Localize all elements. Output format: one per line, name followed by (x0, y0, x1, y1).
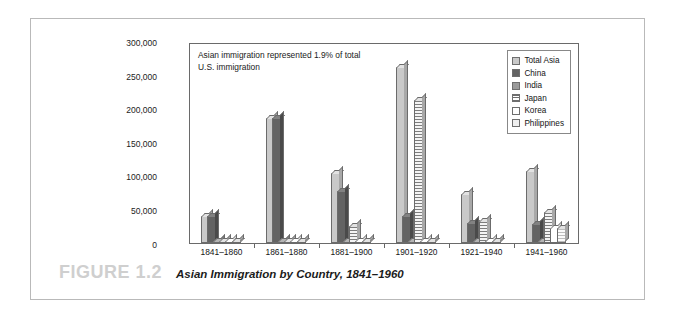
bar-side-face (215, 209, 219, 242)
bar (414, 100, 423, 243)
y-axis-tick-label: 100,000 (95, 173, 157, 181)
bar-side-face (280, 111, 284, 242)
y-axis-tick-label: 250,000 (95, 73, 157, 81)
bar (272, 118, 281, 243)
bar-group (201, 44, 247, 243)
y-axis-tick-label: 200,000 (95, 106, 157, 114)
figure-caption: FIGURE 1.2 Asian Immigration by Country,… (59, 262, 404, 283)
y-axis-tick-labels: 300,000250,000200,000150,000100,00050,00… (71, 43, 157, 244)
bar-group (526, 44, 572, 243)
figure-frame: 300,000250,000200,000150,000100,00050,00… (30, 18, 645, 300)
x-axis-tick-label: 1861–1880 (254, 247, 319, 257)
bar (557, 228, 566, 243)
x-axis-tick-mark (319, 244, 320, 248)
bar (492, 241, 501, 243)
bar-group (266, 44, 312, 243)
bar (427, 241, 436, 243)
y-axis-tick-label: 300,000 (95, 39, 157, 47)
x-axis-tick-mark (449, 244, 450, 248)
figure-title: Asian Immigration by Country, 1841–1960 (176, 268, 404, 280)
x-axis-tick-mark (254, 244, 255, 248)
x-axis-tick-label: 1921–1940 (449, 247, 514, 257)
bar-group (396, 44, 442, 243)
y-axis-tick-label: 50,000 (95, 207, 157, 215)
bar (232, 241, 241, 243)
bar-side-face (345, 184, 349, 242)
bar-side-face (422, 93, 426, 242)
y-axis-tick-zero: 0 (71, 240, 157, 250)
bar (337, 191, 346, 243)
bar-group (331, 44, 377, 243)
bar-group (461, 44, 507, 243)
plot-area: Asian immigration represented 1.9% of to… (189, 43, 579, 244)
x-axis-tick-mark (514, 244, 515, 248)
x-axis-tick-label: 1841–1860 (189, 247, 254, 257)
x-axis-tick-label: 1941–1960 (514, 247, 579, 257)
x-axis-tick-mark (384, 244, 385, 248)
figure-number: FIGURE 1.2 (59, 262, 162, 283)
x-axis-tick-label: 1901–1920 (384, 247, 449, 257)
chart-block: 300,000250,000200,000150,000100,00050,00… (31, 19, 646, 254)
x-axis-tick-label: 1881–1900 (319, 247, 384, 257)
bar-side-face (565, 221, 569, 242)
bars-layer (190, 44, 578, 243)
bar (362, 241, 371, 243)
bar (297, 241, 306, 243)
y-axis-tick-label: 150,000 (95, 140, 157, 148)
x-axis-tick-labels: 1841–18601861–18801881–19001901–19201921… (189, 247, 579, 263)
